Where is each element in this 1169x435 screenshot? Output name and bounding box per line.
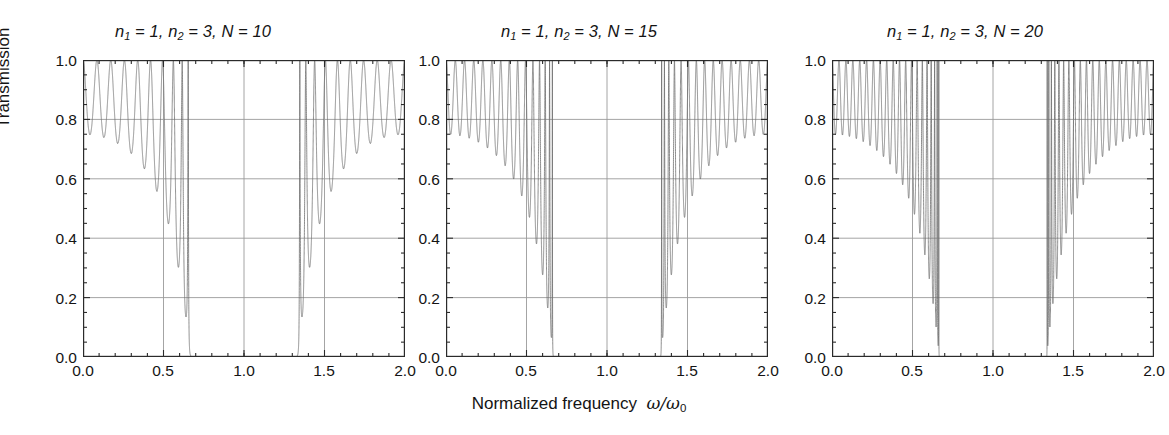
- x-tick-2: 0.5: [496, 362, 556, 380]
- x-tick-3: 1.0: [214, 362, 274, 380]
- plot-area-n20: [832, 60, 1154, 357]
- y-tick-2: 0.8: [394, 112, 440, 128]
- y-tick-5: 0.2: [31, 291, 77, 307]
- plot-area-n15: [446, 60, 768, 357]
- gridlines-n10: [83, 60, 405, 357]
- panel-title-n15: n1 = 1, n2 = 3, N = 15: [386, 22, 772, 42]
- x-tick-4: 1.5: [294, 362, 354, 380]
- y-tick-2: 0.8: [31, 112, 77, 128]
- gridlines-n15: [446, 60, 768, 357]
- y-tick-labels: 1.0 0.8 0.6 0.4 0.2 0.0: [25, 60, 77, 357]
- y-axis-title: Transmission: [0, 0, 14, 128]
- y-tick-3: 0.6: [394, 172, 440, 188]
- y-tick-5: 0.2: [780, 291, 826, 307]
- y-tick-4: 0.4: [780, 231, 826, 247]
- y-tick-3: 0.6: [31, 172, 77, 188]
- x-tick-4: 1.5: [657, 362, 717, 380]
- y-tick-1: 1.0: [31, 53, 77, 69]
- plot-svg-n20: [832, 60, 1154, 357]
- y-tick-labels-n15: 1.0 0.8 0.6 0.4 0.2 0.0: [388, 60, 440, 357]
- y-tick-1: 1.0: [780, 53, 826, 69]
- panel-n20: n1 = 1, n2 = 3, N = 20 1.0 0.8 0.6 0.4 0…: [772, 0, 1158, 435]
- x-axis-title: Normalized frequency ω/ω0: [0, 393, 1158, 414]
- x-tick-2: 0.5: [882, 362, 942, 380]
- plot-area-n10: [83, 60, 405, 357]
- y-tick-5: 0.2: [394, 291, 440, 307]
- plot-svg-n15: [446, 60, 768, 357]
- x-axis-title-text: Normalized frequency: [472, 394, 637, 413]
- x-axis-title-symbol: ω/ω: [646, 393, 679, 413]
- x-tick-1: 0.0: [416, 362, 476, 380]
- x-tick-labels-n15: 0.0 0.5 1.0 1.5 2.0: [446, 362, 768, 384]
- panel-title-n10: n1 = 1, n2 = 3, N = 10: [0, 22, 386, 42]
- panel-n10: n1 = 1, n2 = 3, N = 10 1.0 0.8 0.6 0.4 0…: [0, 0, 386, 435]
- x-tick-3: 1.0: [963, 362, 1023, 380]
- y-tick-4: 0.4: [31, 231, 77, 247]
- panel-title-n20: n1 = 1, n2 = 3, N = 20: [772, 22, 1158, 42]
- x-tick-labels-n20: 0.0 0.5 1.0 1.5 2.0: [832, 362, 1154, 384]
- x-tick-1: 0.0: [802, 362, 862, 380]
- x-tick-labels-n10: 0.0 0.5 1.0 1.5 2.0: [83, 362, 405, 384]
- y-tick-3: 0.6: [780, 172, 826, 188]
- y-tick-labels-n20: 1.0 0.8 0.6 0.4 0.2 0.0: [774, 60, 826, 357]
- x-tick-2: 0.5: [133, 362, 193, 380]
- x-tick-1: 0.0: [53, 362, 113, 380]
- y-tick-2: 0.8: [780, 112, 826, 128]
- gridlines-n20: [832, 60, 1154, 357]
- x-tick-3: 1.0: [577, 362, 637, 380]
- plot-svg-n10: [83, 60, 405, 357]
- y-tick-1: 1.0: [394, 53, 440, 69]
- x-tick-5: 2.0: [1124, 362, 1169, 380]
- panel-n15: n1 = 1, n2 = 3, N = 15 1.0 0.8 0.6 0.4 0…: [386, 0, 772, 435]
- x-tick-4: 1.5: [1043, 362, 1103, 380]
- y-tick-4: 0.4: [394, 231, 440, 247]
- x-axis-title-symbol-sub: 0: [680, 402, 686, 414]
